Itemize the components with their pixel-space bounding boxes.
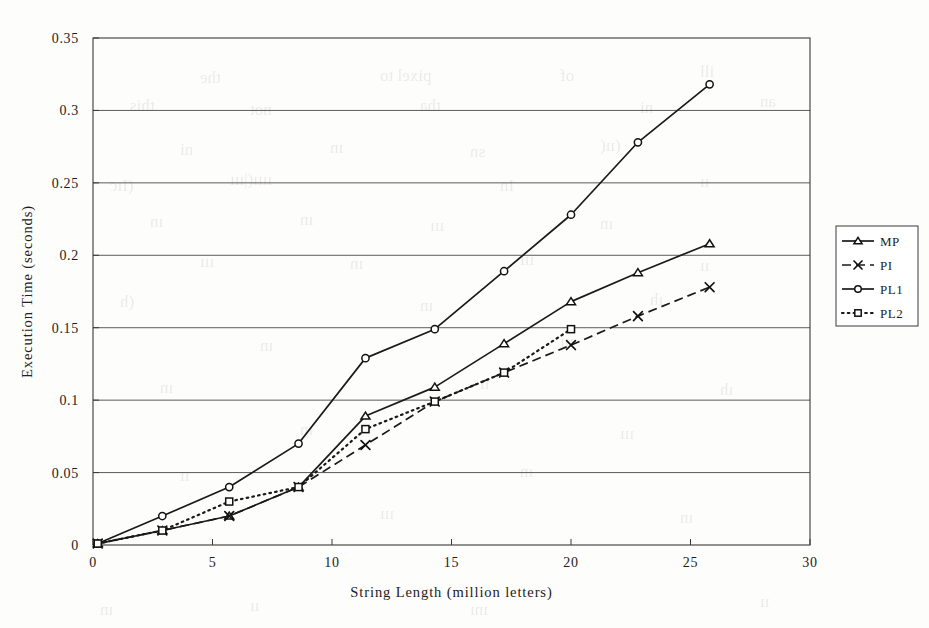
- chart-page: pixel tooftheillanthisnotthani(ıı(niınsn…: [0, 0, 929, 628]
- x-tick-label: 30: [802, 555, 817, 570]
- data-point-square: [295, 484, 302, 491]
- execution-time-line-chart: 051015202530 00.050.10.150.20.250.30.35 …: [0, 0, 929, 628]
- y-axis-tick-labels: 00.050.10.150.20.250.30.35: [52, 31, 79, 553]
- x-axis-tick-labels: 051015202530: [89, 555, 818, 570]
- y-tick-label: 0.25: [52, 176, 79, 191]
- data-point-x: [567, 341, 576, 350]
- data-point-triangle: [705, 240, 714, 247]
- data-point-square: [567, 326, 574, 333]
- legend-label: PL1: [880, 282, 903, 297]
- x-tick-label: 20: [563, 555, 578, 570]
- series-pi: [93, 283, 714, 548]
- data-point-square: [94, 540, 101, 547]
- data-point-circle: [500, 268, 507, 275]
- x-tick-label: 15: [444, 555, 459, 570]
- plot-border: [93, 38, 810, 545]
- series-mp: [93, 240, 714, 547]
- y-tick-label: 0.15: [52, 321, 79, 336]
- data-point-x: [634, 312, 643, 321]
- axis-tick-group: [93, 38, 810, 545]
- x-tick-label: 0: [89, 555, 97, 570]
- y-tick-label: 0.3: [59, 103, 79, 118]
- y-tick-label: 0: [71, 538, 79, 553]
- gridline-group: [93, 110, 810, 472]
- y-tick-label: 0.2: [59, 248, 79, 263]
- x-tick-label: 10: [324, 555, 339, 570]
- legend-label: PL2: [880, 306, 903, 321]
- series-line: [98, 329, 571, 543]
- data-point-circle: [567, 211, 574, 218]
- data-point-x: [705, 283, 714, 292]
- legend-label: PI: [880, 258, 893, 273]
- data-series-layer: [93, 81, 714, 548]
- y-axis-title: Execution Time (seconds): [19, 205, 36, 378]
- data-point-square: [159, 527, 166, 534]
- data-point-square: [362, 426, 369, 433]
- y-tick-label: 0.35: [52, 31, 79, 46]
- series-line: [98, 84, 710, 543]
- data-point-square: [501, 369, 508, 376]
- y-tick-label: 0.1: [59, 393, 79, 408]
- data-point-circle: [431, 326, 438, 333]
- y-tick-label: 0.05: [52, 466, 79, 481]
- data-point-square: [431, 398, 438, 405]
- data-point-circle: [706, 81, 713, 88]
- data-point-circle: [295, 440, 302, 447]
- data-point-circle: [362, 355, 369, 362]
- legend-label: MP: [880, 234, 900, 249]
- data-point-square: [226, 498, 233, 505]
- data-point-circle: [159, 512, 166, 519]
- plot-frame: [93, 38, 810, 545]
- x-tick-label: 5: [209, 555, 217, 570]
- chart-legend: MPPIPL1PL2: [836, 226, 918, 326]
- series-line: [98, 244, 710, 544]
- x-axis-title: String Length (million letters): [350, 584, 552, 601]
- data-point-circle: [855, 286, 862, 293]
- data-point-square: [855, 310, 861, 316]
- x-tick-label: 25: [683, 555, 698, 570]
- data-point-x: [361, 441, 370, 450]
- data-point-circle: [634, 139, 641, 146]
- data-point-circle: [226, 483, 233, 490]
- series-pl1: [94, 81, 713, 547]
